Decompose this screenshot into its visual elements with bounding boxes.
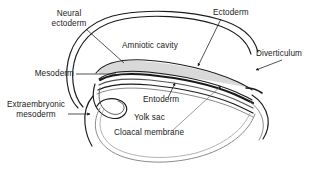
diverticulum-tip	[246, 88, 262, 93]
ectoderm-leader	[198, 19, 221, 66]
extraembryonic-wall-group	[85, 96, 93, 146]
label-extraembryonic-mesoderm-line1: Extraembryonic	[4, 100, 68, 110]
extraembryonic-mesoderm-wall	[85, 96, 93, 146]
diverticulum-leader	[256, 60, 282, 70]
label-neural-ectoderm-line1: Neural	[42, 9, 96, 19]
diverticulum-outer	[252, 95, 268, 139]
label-neural-ectoderm-line2: ectoderm	[42, 19, 96, 29]
label-mesoderm: Mesoderm	[12, 69, 74, 79]
embryo-diagram-figure: Neural ectoderm Ectoderm Amniotic cavity…	[0, 0, 318, 173]
label-extraembryonic-mesoderm-line2: mesoderm	[4, 110, 68, 120]
label-amniotic-cavity: Amniotic cavity	[122, 41, 178, 51]
neural-ectoderm-leader	[86, 29, 124, 63]
label-yolk-sac: Yolk sac	[134, 113, 165, 123]
label-entoderm: Entoderm	[143, 95, 179, 105]
label-extraembryonic-mesoderm: Extraembryonic mesoderm	[4, 100, 68, 119]
label-diverticulum: Diverticulum	[256, 49, 302, 59]
label-cloacal-membrane: Cloacal membrane	[114, 128, 184, 138]
label-ectoderm: Ectoderm	[213, 8, 249, 18]
label-neural-ectoderm: Neural ectoderm	[42, 9, 96, 28]
